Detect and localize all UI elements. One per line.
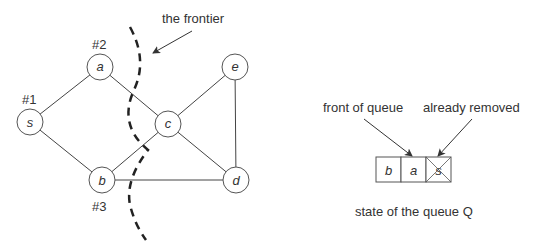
bfs-diagram: the frontier s a b c e d #1 #2 #3 <box>0 0 539 252</box>
already-removed-label: already removed <box>423 100 520 115</box>
node-b: b <box>89 167 115 193</box>
frontier-curve <box>128 27 148 240</box>
queue: b a s <box>376 157 451 182</box>
front-of-queue-arrow <box>364 119 412 156</box>
node-a: a <box>87 54 113 80</box>
svg-text:d: d <box>232 173 240 188</box>
node-s: s <box>17 109 43 135</box>
svg-text:b: b <box>98 173 105 188</box>
svg-text:s: s <box>27 115 34 130</box>
graph-edges <box>30 67 236 180</box>
edge-e-d <box>235 67 236 180</box>
queue-cell-1-label: a <box>410 163 417 178</box>
svg-text:a: a <box>96 59 103 74</box>
node-c: c <box>155 111 181 137</box>
queue-cell-0-label: b <box>385 163 392 178</box>
node-d: d <box>223 167 249 193</box>
queue-caption: state of the queue Q <box>355 204 473 219</box>
frontier-arrow <box>153 31 192 53</box>
svg-text:e: e <box>231 59 238 74</box>
graph-nodes: s a b c e d <box>17 54 249 193</box>
queue-cell-2-label: s <box>435 163 442 178</box>
edge-s-b <box>30 122 102 180</box>
already-removed-arrow <box>438 119 472 156</box>
svg-text:c: c <box>165 116 172 131</box>
order-label-a: #2 <box>92 37 106 52</box>
order-label-b: #3 <box>92 199 106 214</box>
node-e: e <box>222 54 248 80</box>
order-label-s: #1 <box>22 92 36 107</box>
front-of-queue-label: front of queue <box>323 100 403 115</box>
frontier-label: the frontier <box>162 11 225 26</box>
